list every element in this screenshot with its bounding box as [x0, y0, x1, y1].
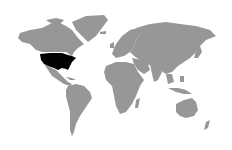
world-map [0, 0, 232, 150]
region-australia[interactable] [176, 98, 198, 118]
region-philippines[interactable] [180, 76, 184, 82]
region-arctic-islands[interactable] [46, 18, 64, 24]
region-iceland[interactable] [100, 31, 106, 34]
land-layer [18, 15, 216, 136]
region-new-zealand[interactable] [204, 120, 210, 130]
region-caribbean[interactable] [66, 77, 76, 80]
region-southeast-asia[interactable] [166, 74, 174, 84]
region-united-states[interactable] [40, 53, 76, 70]
region-india[interactable] [150, 64, 162, 82]
region-indonesia[interactable] [168, 88, 192, 94]
region-canada[interactable] [18, 22, 84, 56]
region-madagascar[interactable] [135, 98, 140, 108]
region-south-america[interactable] [66, 84, 92, 136]
region-uk[interactable] [110, 42, 114, 48]
